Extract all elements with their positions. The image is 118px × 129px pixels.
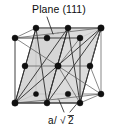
lattice-parameter-label: a / √ 2 [48,115,74,126]
atom-bottom-edge-center-front [44,100,50,106]
atom-top-edge-center-back [65,25,71,31]
lattice-label-radicand: 2 [68,115,74,126]
atom-back-bottom-left [33,91,38,96]
atom-bottom-edge-center-back [65,91,71,97]
atom-right-face-center [87,63,93,69]
atom-front-bottom-left [12,100,18,106]
atom-body-center [55,63,61,69]
atom-front-top-left [12,35,18,41]
lattice-label-slash: / [54,115,57,126]
plane-label: Plane (111) [32,3,86,15]
unit-cell-drawing: Plane (111) a / √ 2 [0,0,118,129]
lattice-label-radical: √ [60,115,66,126]
atom-back-bottom-right [98,91,104,97]
atom-back-top-right [98,25,104,31]
crystal-structure-figure: Plane (111) a / √ 2 [0,0,118,129]
atom-top-edge-center-front [44,35,50,41]
atom-front-top-right [77,35,83,41]
atom-left-face-center [22,63,28,69]
right-face-center-down-bond [90,66,101,94]
atom-back-top-left [33,25,39,31]
